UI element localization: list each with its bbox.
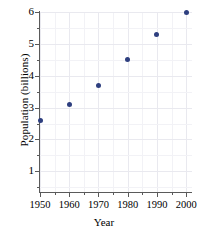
y-tick-minor [37, 155, 40, 156]
gridline-vertical [98, 12, 99, 192]
x-tick [98, 192, 99, 197]
data-point [184, 10, 189, 15]
data-point [154, 32, 159, 37]
y-tick [35, 76, 40, 77]
y-tick-label: 2 [4, 133, 34, 144]
y-tick-label: 6 [4, 6, 34, 17]
gridline-horizontal [40, 108, 192, 109]
gridline-horizontal-minor [40, 155, 192, 156]
x-axis-title: Year [0, 216, 208, 228]
y-tick-minor [37, 124, 40, 125]
x-tick-minor [172, 192, 173, 195]
gridline-horizontal-minor [40, 124, 192, 125]
gridline-horizontal [40, 44, 192, 45]
x-tick-minor [142, 192, 143, 195]
y-tick [35, 108, 40, 109]
gridline-horizontal-minor [40, 60, 192, 61]
data-point [38, 118, 43, 123]
plot-area [40, 12, 192, 192]
y-tick-label: 4 [4, 70, 34, 81]
x-tick [157, 192, 158, 197]
y-tick-minor [37, 92, 40, 93]
y-tick [35, 139, 40, 140]
y-tick-minor [37, 28, 40, 29]
gridline-vertical-minor [142, 12, 143, 192]
y-tick-label: 3 [4, 102, 34, 113]
gridline-horizontal [40, 76, 192, 77]
data-point [125, 57, 130, 62]
x-tick [186, 192, 187, 197]
gridline-vertical [40, 12, 41, 192]
gridline-vertical-minor [84, 12, 85, 192]
gridline-horizontal-minor [40, 187, 192, 188]
x-tick-label: 2000 [169, 200, 203, 211]
scatter-chart-figure: Population (billions) Year 123456 195019… [0, 0, 208, 236]
gridline-vertical-minor [113, 12, 114, 192]
y-tick-label: 1 [4, 165, 34, 176]
y-tick [35, 171, 40, 172]
y-tick-label: 5 [4, 38, 34, 49]
gridline-horizontal-minor [40, 28, 192, 29]
gridline-horizontal-minor [40, 92, 192, 93]
x-tick [40, 192, 41, 197]
data-point [96, 83, 101, 88]
gridline-vertical [128, 12, 129, 192]
gridline-vertical-minor [172, 12, 173, 192]
gridline-vertical [186, 12, 187, 192]
y-tick-minor [37, 187, 40, 188]
x-tick [128, 192, 129, 197]
x-tick-minor [55, 192, 56, 195]
gridline-horizontal [40, 12, 192, 13]
x-tick [69, 192, 70, 197]
y-tick-minor [37, 60, 40, 61]
x-tick-minor [84, 192, 85, 195]
y-tick [35, 12, 40, 13]
gridline-vertical-minor [55, 12, 56, 192]
x-axis-spine [39, 192, 192, 193]
gridline-vertical [157, 12, 158, 192]
gridline-horizontal [40, 139, 192, 140]
gridline-horizontal [40, 171, 192, 172]
data-point [67, 102, 72, 107]
x-tick-minor [113, 192, 114, 195]
y-tick [35, 44, 40, 45]
